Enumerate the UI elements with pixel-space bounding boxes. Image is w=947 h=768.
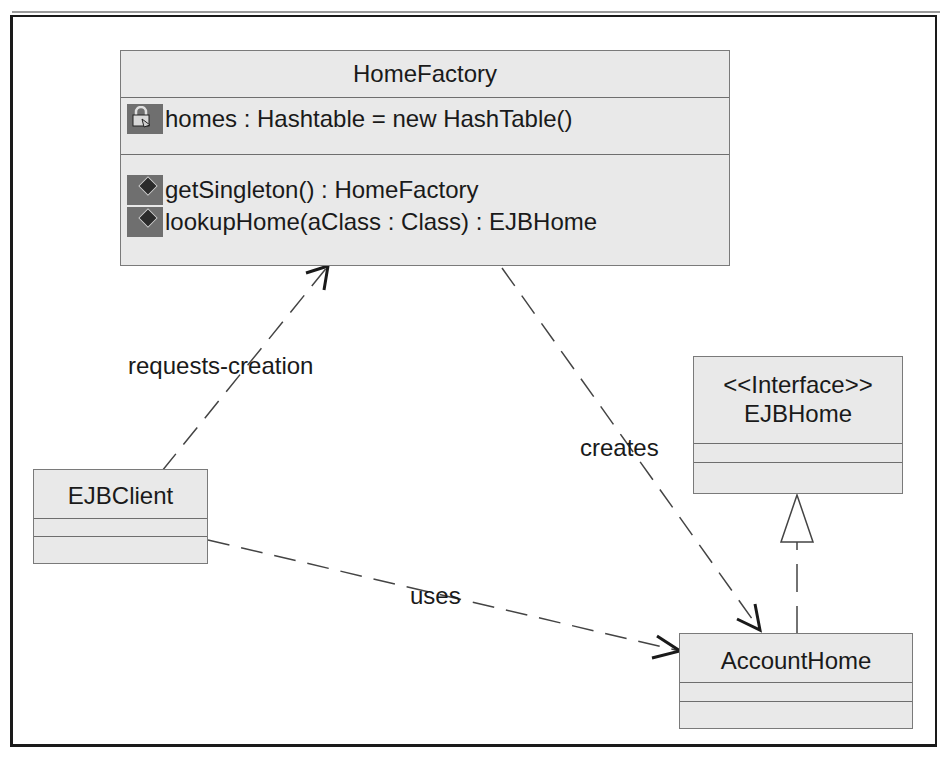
attributes-compartment [680,683,912,701]
operations-compartment [34,537,207,561]
class-ejb-home[interactable]: <<Interface>> EJBHome [693,356,903,494]
public-diamond-icon [127,175,163,205]
operations-compartment [694,463,902,491]
operations-compartment: getSingleton() : HomeFactory lookupHome(… [121,155,729,237]
class-header: <<Interface>> EJBHome [694,357,902,443]
operations-compartment [680,702,912,726]
label-requests-creation: requests-creation [128,352,313,380]
open-arrowhead-icon [652,636,680,658]
operation-text: lookupHome(aClass : Class) : EJBHome [165,208,597,236]
hollow-triangle-icon [781,495,813,542]
operation-row[interactable]: lookupHome(aClass : Class) : EJBHome [127,207,729,237]
class-name: EJBHome [694,399,902,429]
attributes-compartment [34,519,207,536]
class-name: HomeFactory [121,51,729,97]
operation-row[interactable]: getSingleton() : HomeFactory [127,175,729,205]
attributes-compartment [694,444,902,462]
class-account-home[interactable]: AccountHome [679,633,913,729]
operation-text: getSingleton() : HomeFactory [165,176,478,204]
stereotype: <<Interface>> [694,371,902,399]
attributes-compartment: homes : Hashtable = new HashTable() [121,98,729,154]
label-creates: creates [580,434,659,462]
edge-realization[interactable] [781,495,813,634]
attribute-text: homes : Hashtable = new HashTable() [165,105,573,133]
attribute-row[interactable]: homes : Hashtable = new HashTable() [127,104,729,134]
label-uses: uses [410,582,461,610]
class-home-factory[interactable]: HomeFactory homes : Hashtable = new Hash… [120,50,730,266]
class-name: EJBClient [34,470,207,518]
public-diamond-icon [127,207,163,237]
private-lock-icon [127,104,163,134]
class-ejb-client[interactable]: EJBClient [33,469,208,564]
class-name: AccountHome [680,634,912,682]
open-arrowhead-icon [737,604,760,630]
